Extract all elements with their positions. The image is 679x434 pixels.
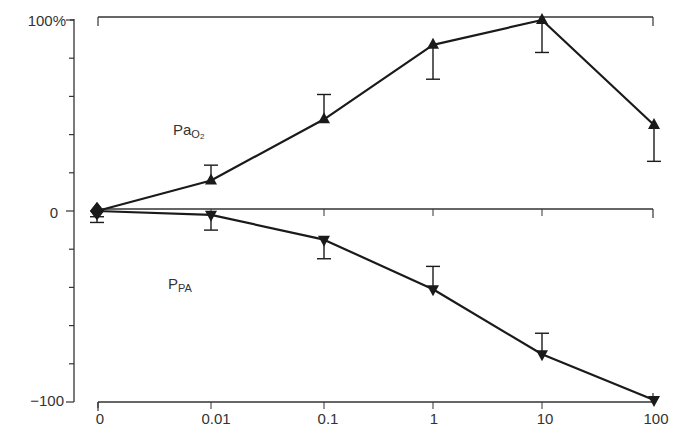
x-tick-label-0.01: 0.01 (201, 410, 230, 427)
ppa-label-sub: PA (178, 282, 193, 294)
x-tick-label-1: 1 (430, 410, 438, 427)
triangle-up-marker (318, 112, 330, 123)
chart-canvas: 100% 0 −100 0 0.01 0.1 1 10 100 PaO2 PPA (0, 0, 679, 434)
pao2-label-main: Pa (173, 121, 192, 138)
series-group (90, 13, 661, 407)
series-line-ppa (97, 211, 654, 400)
y-tick-label-100: 100% (28, 12, 66, 29)
x-tick-label-10: 10 (537, 410, 554, 427)
x-tick-label-100: 100 (643, 410, 668, 427)
x-tick-label-0: 0 (96, 410, 104, 427)
axes (66, 19, 74, 402)
pao2-label-sub2: 2 (200, 132, 205, 141)
y-tick-label-0: 0 (50, 204, 58, 221)
series-label-ppa: PPA (168, 275, 193, 294)
series-line-pao2 (97, 20, 654, 211)
series-label-pao2: PaO2 (173, 121, 205, 141)
x-tick-label-0.1: 0.1 (318, 410, 339, 427)
triangle-up-marker (536, 13, 548, 24)
ppa-label-main: P (168, 275, 178, 292)
y-tick-label-minus-100: −100 (30, 392, 64, 409)
